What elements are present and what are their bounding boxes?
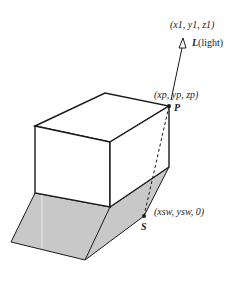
point-s-label: S (141, 222, 147, 232)
point-p-label: P (174, 103, 180, 113)
point-p-coords-label: (xp, yp, zp) (154, 90, 198, 100)
light-position-label: (x1, y1, z1) (170, 20, 214, 30)
arrow-head-icon (179, 38, 186, 48)
light-label: L(light) (192, 38, 223, 48)
shadow-point-coords-label: (xsw, ysw, 0) (154, 207, 204, 217)
point-p-marker (167, 104, 171, 108)
point-s-marker (142, 214, 146, 218)
